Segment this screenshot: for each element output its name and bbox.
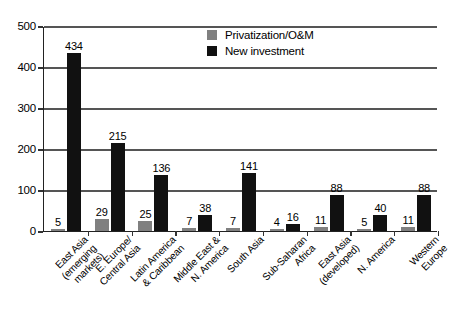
legend-label-privatization: Privatization/O&M	[225, 29, 314, 41]
x-axis-category-label-line: South Asia	[224, 234, 265, 275]
x-axis-category-label: WesternEurope	[407, 234, 449, 276]
x-axis-category-label: South Asia	[224, 234, 265, 275]
bar-group: 7141	[219, 27, 263, 231]
bar-value-label: 215	[102, 130, 134, 142]
bar-privatization	[270, 229, 284, 231]
x-axis-category-label: N. America	[355, 234, 397, 276]
bar-group: 29215	[88, 27, 132, 231]
legend-swatch-privatization	[207, 30, 217, 40]
bar-new-investment	[242, 173, 256, 231]
bar-value-label: 88	[321, 182, 353, 194]
y-axis-tick-label: 200	[2, 143, 36, 155]
x-axis-category-labels: East Asia(emergingmarkets)E. Europe/Cent…	[43, 234, 437, 312]
bar-group: 5434	[44, 27, 88, 231]
bar-privatization	[182, 228, 196, 231]
plot-area: 54342921525136738714141611885401188	[43, 27, 437, 232]
bar-group: 738	[175, 27, 219, 231]
bar-privatization	[401, 227, 415, 232]
bar-group: 540	[350, 27, 394, 231]
legend-swatch-new-investment	[207, 46, 217, 56]
bar-group: 1188	[307, 27, 351, 231]
bar-value-label: 141	[233, 160, 265, 172]
bar-group: 1188	[394, 27, 438, 231]
bar-new-investment	[111, 143, 125, 231]
bar-privatization	[95, 219, 109, 231]
bar-group: 25136	[132, 27, 176, 231]
bar-new-investment	[154, 175, 168, 231]
bar-new-investment	[373, 215, 387, 231]
y-axis-tick-label: 500	[2, 20, 36, 32]
bar-value-label: 136	[145, 162, 177, 174]
bar-privatization	[226, 228, 240, 231]
bar-privatization	[314, 227, 328, 232]
bar-new-investment	[67, 53, 81, 231]
bar-privatization	[51, 229, 65, 231]
bar-value-label: 88	[408, 182, 440, 194]
y-axis-tick-label: 0	[2, 225, 36, 237]
x-axis-category-label-line: N. America	[355, 234, 397, 276]
legend-item-new-investment: New investment	[207, 44, 314, 57]
y-axis-tick-label: 400	[2, 61, 36, 73]
bar-value-label: 40	[364, 202, 396, 214]
bar-value-label: 434	[58, 40, 90, 52]
bar-new-investment	[198, 215, 212, 231]
bar-new-investment	[417, 195, 431, 231]
y-axis-tick-label: 300	[2, 102, 36, 114]
x-axis-tick-mark	[438, 231, 439, 236]
bar-privatization	[357, 229, 371, 231]
bar-privatization	[138, 221, 152, 231]
bar-new-investment	[286, 224, 300, 231]
x-axis-category-label: Middle East &N. America	[171, 234, 230, 293]
legend-item-privatization: Privatization/O&M	[207, 28, 314, 41]
x-axis-category-label: East Asia(developed)	[309, 234, 362, 287]
bar-chart: 0100200300400500 54342921525136738714141…	[0, 0, 450, 312]
bar-group: 416	[263, 27, 307, 231]
chart-legend: Privatization/O&M New investment	[207, 28, 314, 57]
y-axis-tick-label: 100	[2, 184, 36, 196]
bar-new-investment	[330, 195, 344, 231]
legend-label-new-investment: New investment	[225, 45, 304, 57]
x-axis-category-label: Sub-SaharanAfrica	[260, 234, 317, 291]
bar-value-label: 38	[189, 202, 221, 214]
